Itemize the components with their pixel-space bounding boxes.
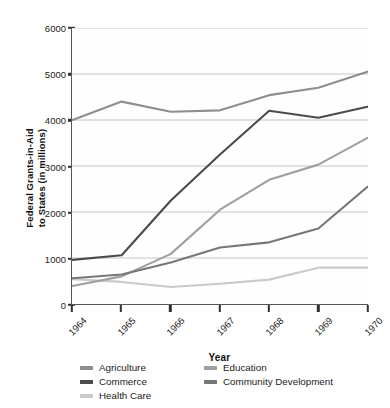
x-tick-mark — [169, 305, 171, 312]
y-axis-tick-labels: 0100020003000400050006000 — [18, 28, 66, 305]
y-tick-label: 4000 — [24, 115, 66, 126]
legend-item-community-development[interactable]: Community Development — [204, 376, 333, 388]
y-tick-label: 6000 — [24, 23, 66, 34]
series-lines — [72, 72, 367, 287]
legend-item-education[interactable]: Education — [204, 362, 267, 374]
x-tick-mark — [366, 305, 368, 312]
x-axis-tick-labels: 1964196519661967196819691970 — [71, 313, 368, 353]
legend-swatch-icon — [204, 380, 217, 385]
legend-label: Commerce — [99, 376, 147, 388]
x-tick-mark — [268, 305, 270, 312]
y-tick-label: 2000 — [24, 207, 66, 218]
x-tick-label: 1965 — [115, 315, 138, 338]
legend-swatch-icon — [204, 366, 217, 371]
y-tick-label: 5000 — [24, 69, 66, 80]
chart-legend: AgricultureCommerceHealth CareEducationC… — [80, 362, 380, 406]
x-tick-mark — [218, 305, 220, 312]
plot-svg — [72, 28, 368, 304]
y-tick-label: 0 — [24, 300, 66, 311]
legend-label: Community Development — [223, 376, 333, 388]
legend-swatch-icon — [80, 366, 93, 371]
x-tick-label: 1964 — [66, 315, 89, 338]
y-tick-label: 1000 — [24, 253, 66, 264]
x-tick-label: 1969 — [312, 315, 335, 338]
x-tick-mark — [70, 305, 72, 312]
legend-label: Health Care — [99, 390, 151, 402]
legend-label: Agriculture — [99, 362, 146, 374]
series-line-agriculture — [72, 72, 367, 120]
chart-figure: Federal Grants-in-Aid to States (in mill… — [0, 0, 390, 408]
x-tick-mark — [120, 305, 122, 312]
legend-swatch-icon — [80, 394, 93, 399]
x-tick-label: 1967 — [214, 315, 237, 338]
y-tick-label: 3000 — [24, 161, 66, 172]
x-tick-label: 1966 — [164, 315, 187, 338]
x-tick-mark — [317, 305, 319, 312]
series-line-commerce — [72, 107, 367, 260]
legend-swatch-icon — [80, 380, 93, 385]
x-tick-label: 1968 — [263, 315, 286, 338]
legend-item-agriculture[interactable]: Agriculture — [80, 362, 146, 374]
x-axis-tick-marks — [71, 305, 368, 313]
legend-item-commerce[interactable]: Commerce — [80, 376, 147, 388]
legend-item-health-care[interactable]: Health Care — [80, 390, 151, 402]
x-tick-label: 1970 — [362, 315, 385, 338]
series-line-community-development — [72, 187, 367, 279]
legend-label: Education — [223, 362, 267, 374]
plot-area — [71, 28, 368, 305]
